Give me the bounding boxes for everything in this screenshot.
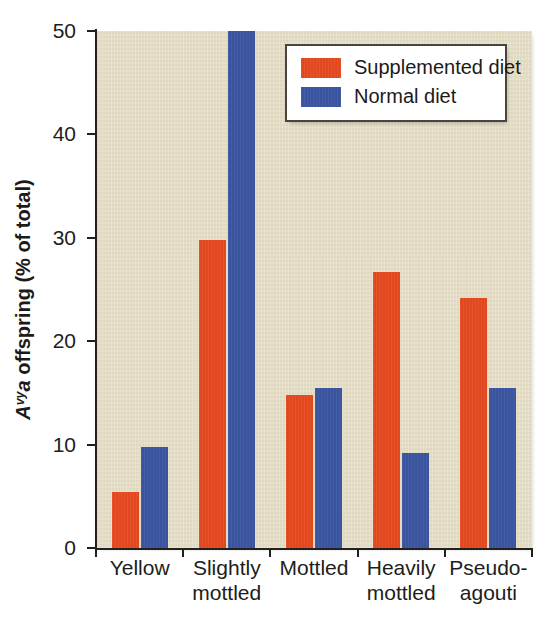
- y-tick-label-40: 40: [28, 123, 76, 144]
- gene-symbol: Avya: [12, 380, 34, 419]
- y-tick-label-20: 20: [28, 330, 76, 351]
- bar-normal-2: [315, 388, 342, 548]
- y-tick-50: [87, 30, 96, 32]
- bar-normal-0: [141, 447, 168, 548]
- y-tick-label-50: 50: [28, 20, 76, 41]
- gene-letter: A: [12, 405, 34, 419]
- y-tick-10: [87, 444, 96, 446]
- legend-item-normal[interactable]: Normal diet: [301, 82, 495, 111]
- bar-normal-3: [402, 453, 429, 548]
- legend-item-supplemented[interactable]: Supplemented diet: [301, 53, 495, 82]
- x-axis-line: [95, 548, 533, 550]
- x-label-line: Yellow: [110, 556, 170, 579]
- y-tick-20: [87, 340, 96, 342]
- x-label-line: mottled: [167, 581, 287, 606]
- x-label-line: agouti: [428, 581, 548, 606]
- x-label-line: Mottled: [280, 556, 349, 579]
- x-label-line: Slightly: [193, 556, 261, 579]
- bar-normal-4: [489, 388, 516, 548]
- bar-supplemented-4: [460, 298, 487, 548]
- x-label-line: Pseudo-: [449, 556, 527, 579]
- bar-supplemented-0: [112, 492, 139, 548]
- y-tick-40: [87, 133, 96, 135]
- bar-supplemented-3: [373, 272, 400, 548]
- y-axis-title-rest: offspring (% of total): [12, 179, 34, 380]
- y-tick-label-0: 0: [28, 537, 76, 558]
- bar-normal-1: [228, 31, 255, 548]
- legend-label-supplemented: Supplemented diet: [354, 56, 521, 79]
- y-tick-label-30: 30: [28, 227, 76, 248]
- x-label-4: Pseudo-agouti: [428, 556, 548, 605]
- x-label-line: Heavily: [367, 556, 436, 579]
- legend-label-normal: Normal diet: [354, 85, 456, 108]
- legend-swatch-supplemented: [301, 58, 341, 78]
- legend: Supplemented diet Normal diet: [285, 44, 507, 122]
- bar-supplemented-2: [286, 395, 313, 548]
- gene-superscript: vy: [13, 391, 27, 405]
- legend-swatch-normal: [301, 87, 341, 107]
- y-tick-label-10: 10: [28, 434, 76, 455]
- y-axis-title: Avya offspring (% of total): [12, 85, 35, 515]
- y-tick-30: [87, 237, 96, 239]
- bar-chart-figure: 01020304050 YellowSlightlymottledMottled…: [0, 0, 553, 624]
- bar-supplemented-1: [199, 240, 226, 548]
- gene-allele: a: [12, 380, 34, 391]
- y-axis-line: [95, 29, 97, 550]
